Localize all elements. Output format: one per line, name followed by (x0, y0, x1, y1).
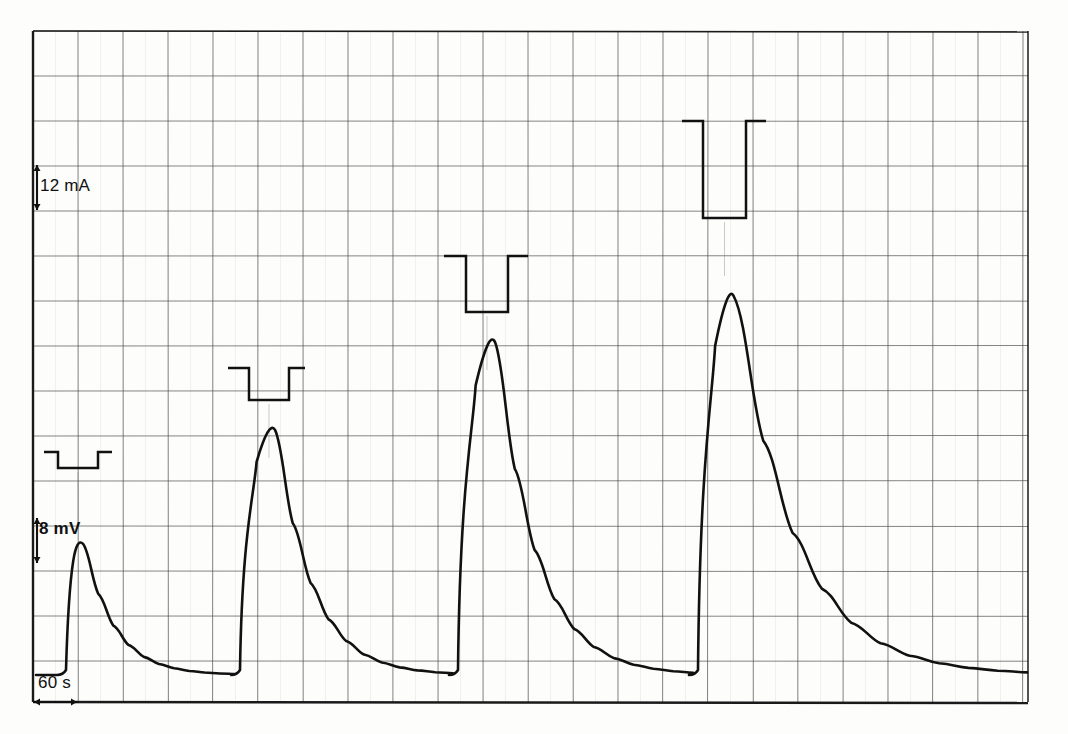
scale-bar-label-current: 12 mA (40, 176, 90, 196)
stimulus-pulse-2 (228, 368, 305, 400)
scale-bar-label-time: 60 s (38, 673, 71, 693)
stimulus-pulse-3 (444, 256, 528, 312)
chart-plot (0, 0, 1068, 734)
scale-bar-label-voltage: 8 mV (39, 519, 80, 539)
response-trace (36, 294, 1027, 675)
response-trace-path (36, 294, 1027, 675)
figure-canvas: 12 mA 8 mV 60 s (0, 0, 1068, 734)
stimulus-pulse-group (44, 121, 766, 526)
plot-frame (33, 31, 1028, 703)
grid-major (33, 31, 1028, 702)
